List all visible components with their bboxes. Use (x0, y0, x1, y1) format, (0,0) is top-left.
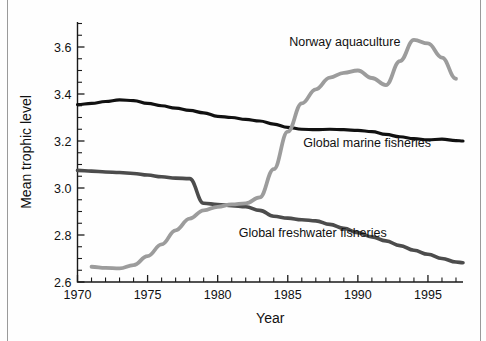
y-tick-label: 3.2 (54, 135, 71, 149)
x-tick-label: 1975 (134, 288, 162, 302)
x-tick-label: 1990 (344, 288, 372, 302)
series-annotations: Global marine fisheriesGlobal freshwater… (239, 35, 431, 241)
x-tick-label: 1995 (414, 288, 442, 302)
axis-spine (78, 22, 464, 282)
x-tick-label: 1985 (274, 288, 302, 302)
line-chart: 2.62.83.03.23.43.61970197519801985199019… (0, 0, 486, 341)
y-tick-label: 3.0 (54, 182, 71, 196)
series-line-global-marine-fisheries (78, 100, 464, 141)
x-tick-label: 1970 (64, 288, 92, 302)
x-axis-title: Year (256, 310, 285, 326)
y-tick-label: 3.4 (54, 88, 71, 102)
series-label-global-freshwater-fisheries: Global freshwater fisheries (239, 226, 387, 240)
axes: 2.62.83.03.23.43.61970197519801985199019… (54, 22, 463, 302)
x-tick-label: 1980 (204, 288, 232, 302)
y-axis-title: Mean trophic level (18, 95, 34, 209)
y-tick-label: 2.8 (54, 229, 71, 243)
y-tick-label: 3.6 (54, 41, 71, 55)
series-label-norway-aquaculture: Norway aquaculture (289, 35, 400, 49)
series-label-global-marine-fisheries: Global marine fisheries (303, 136, 431, 150)
chart-figure: 2.62.83.03.23.43.61970197519801985199019… (0, 0, 486, 341)
series-line-global-freshwater-fisheries (78, 170, 464, 262)
